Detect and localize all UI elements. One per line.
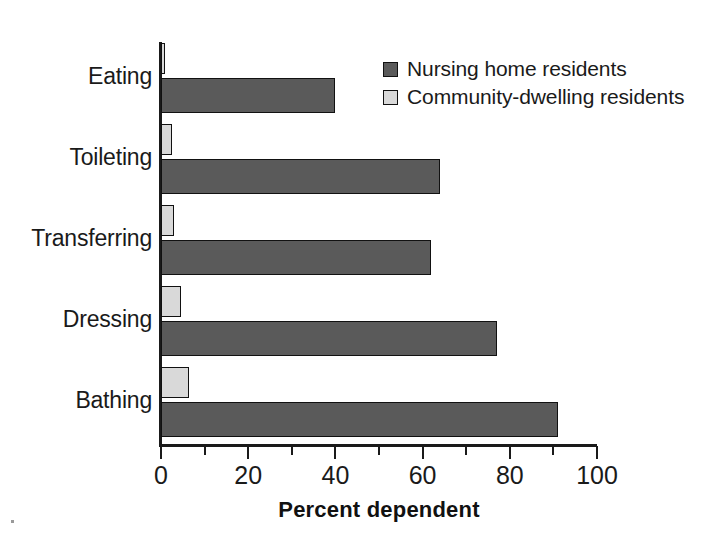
y-axis-category-label: Transferring xyxy=(2,225,152,252)
bar-community-dwelling xyxy=(161,205,174,236)
x-axis-tick-minor xyxy=(552,446,554,455)
bar-nursing-home xyxy=(161,240,431,275)
light-gray-swatch-icon xyxy=(383,90,398,105)
bar-community-dwelling xyxy=(161,43,165,74)
y-axis-category-label: Toileting xyxy=(2,144,152,171)
legend-item-label: Community-dwelling residents xyxy=(407,85,684,109)
bar-community-dwelling xyxy=(161,286,181,317)
x-axis-tick-major xyxy=(334,446,336,459)
x-axis-tick-minor xyxy=(378,446,380,455)
y-axis-category-label: Eating xyxy=(2,63,152,90)
legend-item-nursing-home: Nursing home residents xyxy=(383,55,684,83)
x-axis-tick-major xyxy=(160,446,162,459)
x-axis-tick-label: 60 xyxy=(393,461,453,490)
x-axis-tick-minor xyxy=(291,446,293,455)
bar-nursing-home xyxy=(161,402,558,437)
y-axis-category-label: Bathing xyxy=(2,387,152,414)
bar-chart: EatingToiletingTransferringDressingBathi… xyxy=(0,0,717,545)
scan-artifact-speck xyxy=(11,520,14,523)
x-axis-tick-label: 20 xyxy=(218,461,278,490)
x-axis-tick-label: 100 xyxy=(567,461,627,490)
x-axis-title: Percent dependent xyxy=(161,497,597,523)
legend-item-community-dwelling: Community-dwelling residents xyxy=(383,83,684,111)
bar-nursing-home xyxy=(161,159,440,194)
y-axis-category-labels: EatingToiletingTransferringDressingBathi… xyxy=(0,0,152,545)
y-axis-category-label: Dressing xyxy=(2,306,152,333)
x-axis-tick-label: 80 xyxy=(480,461,540,490)
x-axis-tick-major xyxy=(596,446,598,459)
x-axis-tick-major xyxy=(509,446,511,459)
legend: Nursing home residents Community-dwellin… xyxy=(383,55,684,111)
bar-nursing-home xyxy=(161,321,497,356)
x-axis-tick-major xyxy=(422,446,424,459)
x-axis-tick-label: 40 xyxy=(305,461,365,490)
legend-item-label: Nursing home residents xyxy=(407,57,627,81)
x-axis-tick-label: 0 xyxy=(131,461,191,490)
x-axis-tick-minor xyxy=(204,446,206,455)
bar-community-dwelling xyxy=(161,367,189,398)
x-axis-tick-major xyxy=(247,446,249,459)
bar-nursing-home xyxy=(161,78,335,113)
dark-gray-swatch-icon xyxy=(383,62,398,77)
bar-community-dwelling xyxy=(161,124,172,155)
x-axis-tick-minor xyxy=(465,446,467,455)
